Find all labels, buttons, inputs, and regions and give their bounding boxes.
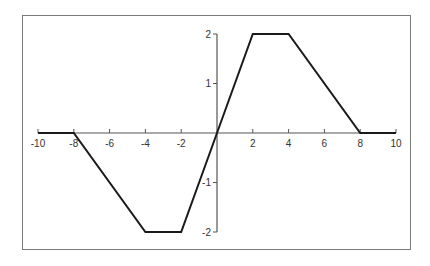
- x-tick-label: 6: [322, 138, 328, 149]
- x-tick-label: 8: [357, 138, 363, 149]
- x-tick-label: -6: [105, 138, 114, 149]
- x-tick-label: -2: [177, 138, 186, 149]
- line-chart: -10-8-6-4-2246810-2-112: [0, 0, 430, 266]
- y-tick-label: -1: [202, 177, 211, 188]
- y-tick-label: -2: [202, 227, 211, 238]
- x-tick-label: 10: [390, 138, 402, 149]
- x-tick-label: -4: [141, 138, 150, 149]
- x-tick-label: 2: [250, 138, 256, 149]
- x-tick-label: 4: [286, 138, 292, 149]
- x-tick-label: -8: [69, 138, 78, 149]
- y-tick-label: 2: [205, 29, 211, 40]
- y-tick-label: 1: [205, 78, 211, 89]
- x-tick-label: -10: [31, 138, 46, 149]
